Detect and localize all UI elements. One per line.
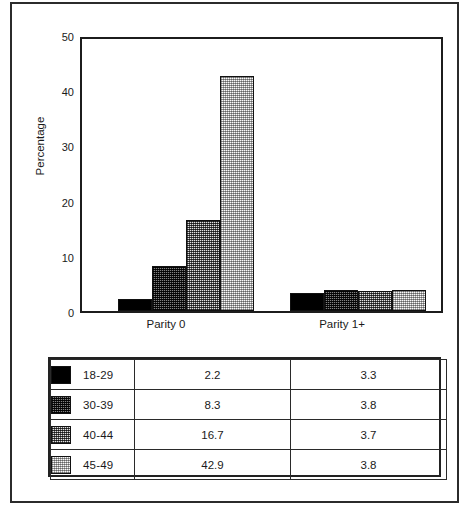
bar-parity0-40-44 <box>186 220 220 312</box>
table-row: 45-49 42.9 3.8 <box>51 450 447 480</box>
bar-parity1plus-30-39 <box>324 290 358 311</box>
table-cell-key: 18-29 <box>51 360 135 390</box>
y-tick-50: 50 <box>40 32 74 43</box>
legend-label-30-39: 30-39 <box>83 399 113 411</box>
legend-swatch-18-29-icon <box>51 366 71 384</box>
bar-parity0-30-39 <box>152 266 186 312</box>
table-row: 18-29 2.2 3.3 <box>51 360 447 390</box>
table-row: 30-39 8.3 3.8 <box>51 390 447 420</box>
y-tick-10: 10 <box>40 253 74 264</box>
bar-parity1plus-45-49 <box>392 290 426 311</box>
legend-label-18-29: 18-29 <box>83 369 113 381</box>
legend-label-45-49: 45-49 <box>83 459 113 471</box>
bar-chart: 50 40 30 20 10 0 Percentage <box>0 0 469 350</box>
bar-parity0-18-29 <box>118 299 152 311</box>
table-cell-parity0: 2.2 <box>135 360 291 390</box>
table-cell-parity1plus: 3.8 <box>291 390 447 420</box>
table-cell-key: 40-44 <box>51 420 135 450</box>
x-tick-parity-1-plus: Parity 1+ <box>300 318 384 330</box>
legend-swatch-30-39-icon <box>51 396 71 414</box>
legend-swatch-45-49-icon <box>51 456 71 474</box>
bar-parity0-45-49 <box>220 76 254 311</box>
y-tick-0: 0 <box>40 308 74 319</box>
table-cell-key: 45-49 <box>51 450 135 480</box>
table-cell-parity0: 42.9 <box>135 450 291 480</box>
table-cell-parity1plus: 3.3 <box>291 360 447 390</box>
figure: 50 40 30 20 10 0 Percentage <box>0 0 469 507</box>
plot-inner <box>82 39 441 311</box>
table-cell-key: 30-39 <box>51 390 135 420</box>
table-row: 40-44 16.7 3.7 <box>51 420 447 450</box>
legend-swatch-40-44-icon <box>51 426 71 444</box>
legend-label-40-44: 40-44 <box>83 429 113 441</box>
table-cell-parity1plus: 3.8 <box>291 450 447 480</box>
table-cell-parity0: 16.7 <box>135 420 291 450</box>
x-tick-parity-0: Parity 0 <box>124 318 208 330</box>
bar-parity1plus-18-29 <box>290 293 324 311</box>
table-cell-parity0: 8.3 <box>135 390 291 420</box>
legend-data-table: 18-29 2.2 3.3 30-39 8.3 3.8 <box>48 357 441 477</box>
y-axis-title: Percentage <box>34 86 46 206</box>
plot-area <box>80 37 443 313</box>
bar-parity1plus-40-44 <box>358 291 392 311</box>
table-cell-parity1plus: 3.7 <box>291 420 447 450</box>
